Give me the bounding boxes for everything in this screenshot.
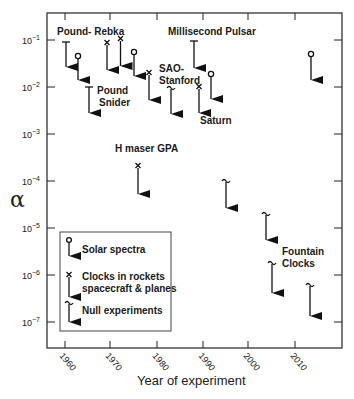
circle-marker — [208, 71, 213, 99]
svg-text:Clocks in rockets: Clocks in rockets — [82, 271, 165, 282]
label-millisecond-pulsar: Millisecond Pulsar — [168, 26, 256, 37]
svg-text:2010: 2010 — [288, 351, 309, 373]
svg-text:spacecraft & planes: spacecraft & planes — [82, 283, 177, 294]
tilde-marker — [306, 284, 314, 317]
bottom-ticks — [65, 341, 295, 348]
x-marker — [118, 36, 123, 66]
x-marker — [197, 84, 202, 113]
y-axis-label: α — [10, 187, 25, 212]
label-fountain-clocks: Fountain Clocks — [282, 246, 327, 269]
svg-text:10−4: 10−4 — [22, 175, 40, 187]
svg-text:10−2: 10−2 — [22, 81, 40, 93]
x-axis-label: Year of experiment — [137, 373, 246, 388]
svg-text:1980: 1980 — [150, 351, 171, 373]
svg-text:1960: 1960 — [57, 351, 78, 373]
svg-text:Null experiments: Null experiments — [82, 305, 163, 316]
svg-text:2000: 2000 — [241, 351, 262, 373]
label-saturn: Saturn — [200, 115, 232, 126]
tilde-marker — [167, 87, 175, 115]
tilde-marker — [262, 213, 270, 241]
svg-text:10−7: 10−7 — [22, 316, 40, 328]
label-pound-rebka: Pound- Rebka — [57, 26, 125, 37]
top-ticks — [65, 13, 295, 20]
svg-text:1970: 1970 — [103, 351, 124, 373]
x-marker — [105, 40, 110, 70]
legend: Solar spectra Clocks in rockets spacecra… — [60, 232, 177, 331]
y-tick-labels: 10−1 10−2 10−3 10−4 10−5 10−6 10−7 — [22, 34, 40, 328]
svg-text:10−1: 10−1 — [22, 34, 40, 46]
tilde-marker — [222, 180, 230, 209]
bar-marker-pound-rebka — [62, 42, 70, 67]
x-marker — [147, 70, 152, 100]
x-tick-labels: 1960 1970 1980 1990 2000 2010 — [57, 351, 309, 373]
alpha-vs-year-chart: 10−1 10−2 10−3 10−4 10−5 10−6 10−7 α 196… — [0, 0, 354, 399]
bar-marker-millisecond-pulsar — [190, 41, 198, 68]
circle-marker — [131, 49, 136, 76]
svg-text:Solar spectra: Solar spectra — [82, 244, 146, 255]
svg-text:10−5: 10−5 — [22, 222, 40, 234]
bar-marker-pound-snider — [85, 87, 93, 113]
label-pound-snider: Pound Snider — [97, 85, 131, 108]
label-h-maser-gpa: H maser GPA — [115, 143, 178, 154]
tilde-marker — [268, 262, 276, 294]
circle-marker — [75, 53, 80, 80]
svg-text:1990: 1990 — [196, 351, 217, 373]
x-marker — [136, 163, 141, 194]
svg-text:10−3: 10−3 — [22, 128, 40, 140]
svg-text:10−6: 10−6 — [22, 269, 40, 281]
circle-icon — [67, 238, 72, 243]
circle-marker — [308, 51, 313, 80]
